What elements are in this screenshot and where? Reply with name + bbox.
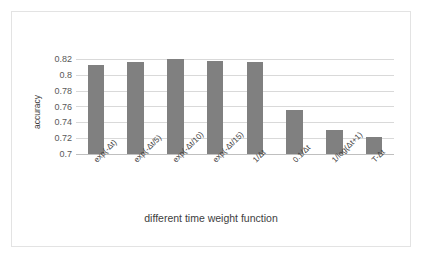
y-axis-tick-label: 0.74 xyxy=(54,118,72,127)
chart-figure: accuracy 0.820.80.780.760.740.720.7 exp(… xyxy=(11,11,411,247)
y-axis-tick-labels: 0.820.80.780.760.740.720.7 xyxy=(42,59,72,154)
y-axis-tick-label: 0.78 xyxy=(54,86,72,95)
chart-plot-region: accuracy 0.820.80.780.760.740.720.7 exp(… xyxy=(12,12,410,246)
x-axis-tick-labels: exp(-Δt)exp(-Δt/5)exp(-Δt/10)exp(-Δt/15)… xyxy=(76,154,394,216)
y-axis-tick-label: 0.7 xyxy=(59,150,72,159)
bar xyxy=(88,65,105,154)
bar xyxy=(247,62,264,154)
y-axis-tick-label: 0.72 xyxy=(54,134,72,143)
y-axis-tick-label: 0.8 xyxy=(59,70,72,79)
bar xyxy=(167,59,184,154)
bar xyxy=(127,62,144,154)
x-axis-title: different time weight function xyxy=(12,212,410,224)
bar xyxy=(207,61,224,154)
y-axis-title-label: accuracy xyxy=(32,95,42,129)
x-axis-title-label: different time weight function xyxy=(144,212,277,224)
y-axis-tick-label: 0.82 xyxy=(54,55,72,64)
y-axis-tick-label: 0.76 xyxy=(54,102,72,111)
